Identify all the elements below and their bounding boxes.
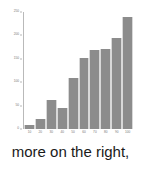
x-tick-label: 40 — [57, 130, 68, 138]
y-tick-label: 0 — [17, 127, 19, 130]
y-tick-mark — [20, 58, 22, 59]
y-tick-label: 250 — [14, 10, 19, 13]
x-axis: 102030405060708090100 — [24, 130, 133, 138]
y-tick-label: 100 — [14, 81, 19, 84]
y-tick-mark — [20, 129, 22, 130]
bar — [68, 78, 79, 129]
bar — [111, 38, 122, 129]
y-tick-mark — [20, 105, 22, 106]
bar — [24, 125, 35, 129]
bar — [57, 108, 68, 129]
x-tick-label: 80 — [100, 130, 111, 138]
histogram-figure: 050100150200250 102030405060708090100 mo… — [0, 0, 141, 170]
chart-area: 050100150200250 102030405060708090100 — [0, 0, 141, 140]
x-tick-label: 30 — [46, 130, 57, 138]
bar — [46, 100, 57, 129]
bar-series — [24, 12, 133, 129]
x-tick-label: 90 — [111, 130, 122, 138]
y-tick-mark — [20, 35, 22, 36]
x-tick-label: 10 — [24, 130, 35, 138]
y-tick-label: 200 — [14, 34, 19, 37]
y-tick-mark — [20, 12, 22, 13]
x-tick-label: 70 — [89, 130, 100, 138]
y-tick-label: 150 — [14, 57, 19, 60]
bar — [122, 17, 133, 129]
x-tick-label: 100 — [122, 130, 133, 138]
y-tick-label: 50 — [15, 104, 19, 107]
y-axis: 050100150200250 — [0, 12, 22, 129]
bar — [35, 119, 46, 129]
y-tick-mark — [20, 82, 22, 83]
figure-caption: more on the right, — [0, 142, 141, 162]
bar — [79, 58, 90, 129]
x-tick-label: 50 — [68, 130, 79, 138]
bar — [100, 49, 111, 129]
bar — [89, 50, 100, 129]
x-tick-label: 60 — [79, 130, 90, 138]
x-tick-label: 20 — [35, 130, 46, 138]
